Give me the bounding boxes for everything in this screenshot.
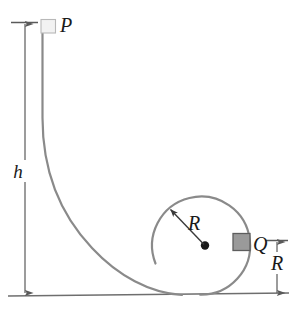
block-at-p [41,20,56,34]
point-p-label: P [59,14,72,36]
physics-figure: h R R P Q [0,0,293,311]
block-at-q [233,234,250,251]
height-label: h [13,161,23,182]
point-q-label: Q [253,233,268,255]
radius-label: R [187,212,200,234]
curved-ramp-track [43,24,183,295]
figure-canvas: h R R P Q [0,0,293,311]
radius-dimension-label: R [270,252,283,274]
ground-line [8,293,289,296]
